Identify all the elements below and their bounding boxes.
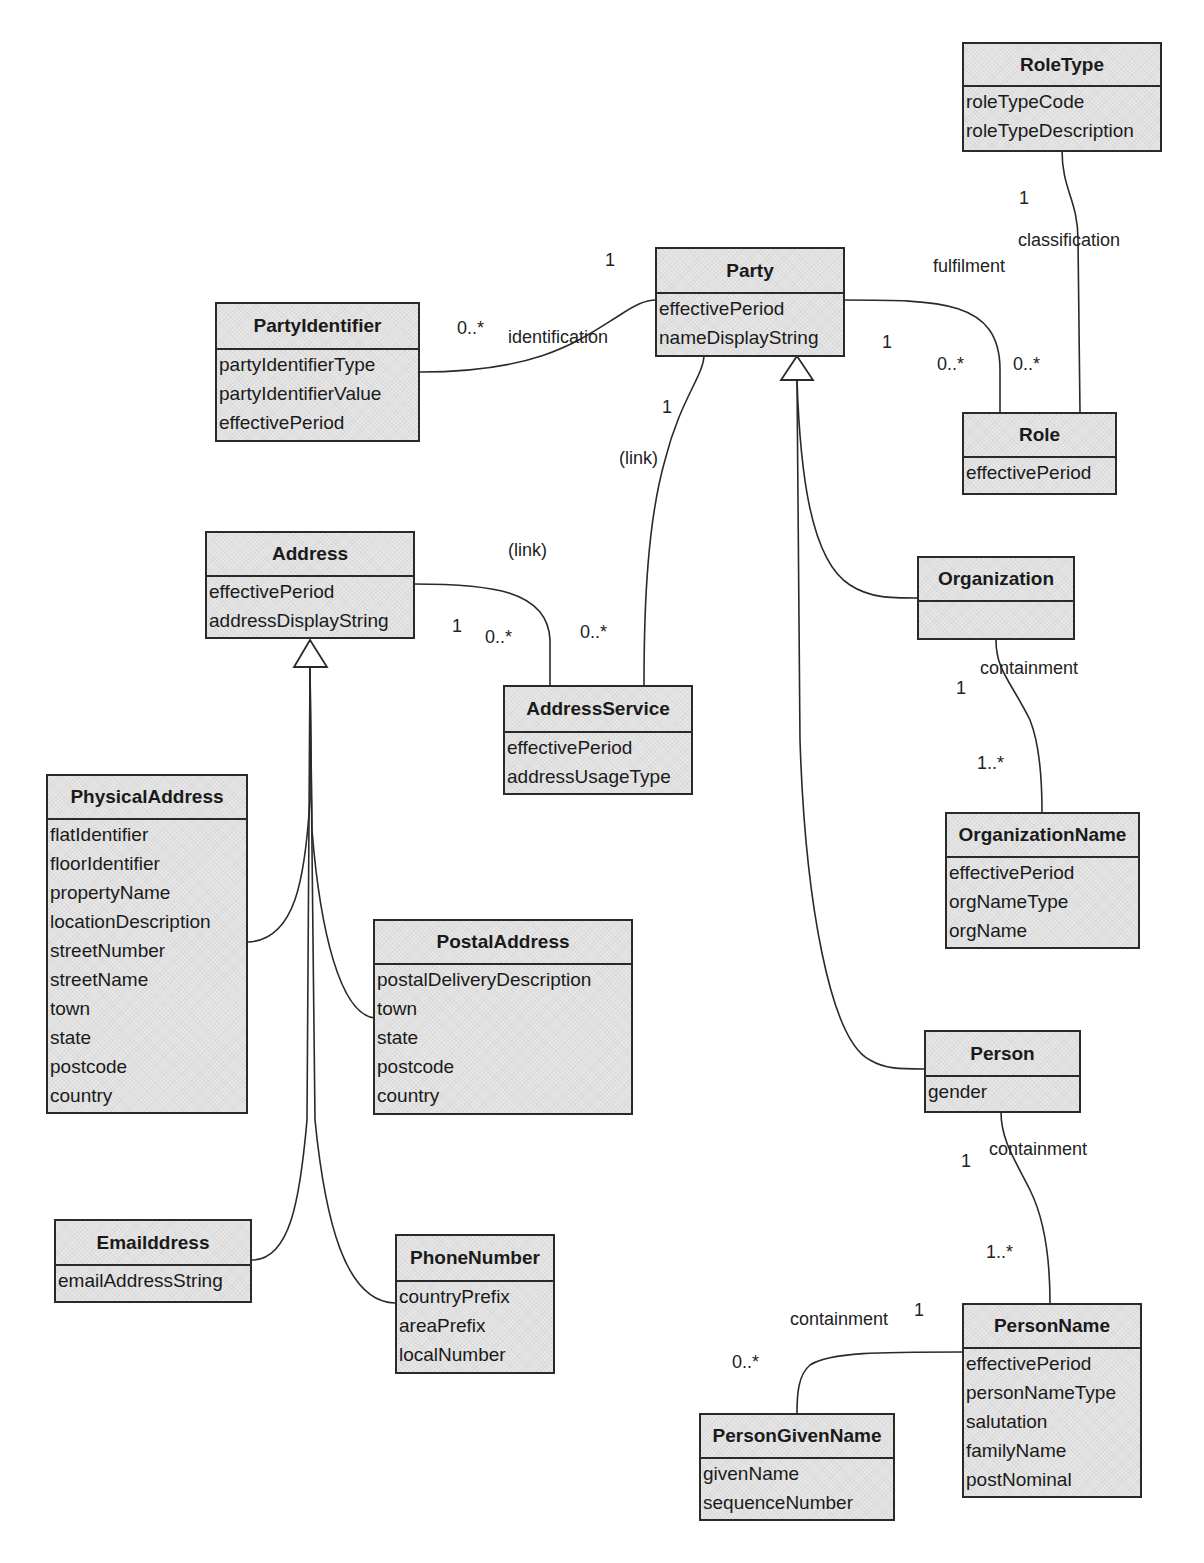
- attribute: givenName: [703, 1459, 893, 1488]
- attribute: addressUsageType: [507, 762, 691, 791]
- class-name: AddressService: [505, 687, 691, 733]
- attribute: partyIdentifierType: [219, 350, 418, 379]
- attribute: state: [50, 1023, 246, 1052]
- attribute: effectivePeriod: [507, 733, 691, 762]
- class-name: Organization: [919, 558, 1073, 602]
- class-physicaladdress[interactable]: PhysicalAddress flatIdentifier floorIden…: [46, 774, 248, 1114]
- class-role[interactable]: Role effectivePeriod: [962, 412, 1117, 495]
- organization-generalization: [797, 380, 918, 598]
- class-organization[interactable]: Organization: [917, 556, 1075, 640]
- attribute: effectivePeriod: [659, 294, 843, 323]
- class-partyidentifier[interactable]: PartyIdentifier partyIdentifierType part…: [215, 302, 420, 442]
- attribute: roleTypeCode: [966, 87, 1160, 116]
- attribute: countryPrefix: [399, 1282, 553, 1311]
- multiplicity-label: 0..*: [1013, 354, 1040, 375]
- class-name: RoleType: [964, 44, 1160, 87]
- multiplicity-label: 1..*: [977, 753, 1004, 774]
- attribute: flatIdentifier: [50, 820, 246, 849]
- address-addressservice-link: [414, 584, 550, 685]
- attribute-list: effectivePeriod nameDisplayString: [657, 294, 843, 352]
- person-generalization: [797, 380, 924, 1069]
- class-name: PhysicalAddress: [48, 776, 246, 820]
- attribute: town: [50, 994, 246, 1023]
- class-party[interactable]: Party effectivePeriod nameDisplayString: [655, 247, 845, 357]
- attribute: floorIdentifier: [50, 849, 246, 878]
- attribute: sequenceNumber: [703, 1488, 893, 1517]
- fulfilment-association: [844, 300, 1000, 412]
- multiplicity-label: 0..*: [937, 354, 964, 375]
- multiplicity-label: 1: [961, 1151, 971, 1172]
- attribute-list: postalDeliveryDescription town state pos…: [375, 965, 631, 1110]
- uml-class-diagram: RoleType roleTypeCode roleTypeDescriptio…: [0, 0, 1204, 1563]
- attribute: salutation: [966, 1407, 1140, 1436]
- class-name: Emailddress: [56, 1221, 250, 1266]
- multiplicity-label: 0..*: [732, 1352, 759, 1373]
- attribute: roleTypeDescription: [966, 116, 1160, 145]
- attribute: personNameType: [966, 1378, 1140, 1407]
- attribute: effectivePeriod: [966, 1349, 1140, 1378]
- class-phonenumber[interactable]: PhoneNumber countryPrefix areaPrefix loc…: [395, 1234, 555, 1374]
- multiplicity-label: 0..*: [457, 318, 484, 339]
- party-generalization-arrow: [781, 356, 813, 380]
- class-name: PhoneNumber: [397, 1236, 553, 1282]
- attribute: postalDeliveryDescription: [377, 965, 631, 994]
- association-label: classification: [1018, 230, 1120, 251]
- association-label: containment: [980, 658, 1078, 679]
- attribute: localNumber: [399, 1340, 553, 1369]
- multiplicity-label: 1: [452, 616, 462, 637]
- attribute-list: effectivePeriod addressUsageType: [505, 733, 691, 791]
- emailaddress-generalization: [252, 667, 310, 1260]
- attribute: nameDisplayString: [659, 323, 843, 352]
- multiplicity-label: 1: [605, 250, 615, 271]
- classification-association: [1062, 150, 1080, 412]
- attribute: postNominal: [966, 1465, 1140, 1494]
- class-address[interactable]: Address effectivePeriod addressDisplaySt…: [205, 531, 415, 639]
- attribute: addressDisplayString: [209, 606, 413, 635]
- attribute: postcode: [377, 1052, 631, 1081]
- postaladdress-generalization: [310, 667, 375, 1018]
- class-person[interactable]: Person gender: [924, 1030, 1081, 1113]
- association-label: containment: [989, 1139, 1087, 1160]
- attribute: familyName: [966, 1436, 1140, 1465]
- class-organizationname[interactable]: OrganizationName effectivePeriod orgName…: [945, 812, 1140, 949]
- attribute: country: [50, 1081, 246, 1110]
- multiplicity-label: 1: [914, 1300, 924, 1321]
- attribute-list: givenName sequenceNumber: [701, 1459, 893, 1517]
- address-generalization-arrow: [294, 640, 327, 667]
- class-persongivenname[interactable]: PersonGivenName givenName sequenceNumber: [699, 1413, 895, 1521]
- attribute-list: emailAddressString: [56, 1266, 250, 1295]
- attribute: postcode: [50, 1052, 246, 1081]
- multiplicity-label: 0..*: [485, 627, 512, 648]
- multiplicity-label: 1: [1019, 188, 1029, 209]
- multiplicity-label: 1: [882, 332, 892, 353]
- attribute: gender: [928, 1077, 1079, 1106]
- party-addressservice-link: [644, 355, 704, 685]
- association-label: containment: [790, 1309, 888, 1330]
- attribute: effectivePeriod: [966, 458, 1115, 487]
- class-name: PartyIdentifier: [217, 304, 418, 350]
- attribute-list: effectivePeriod: [964, 458, 1115, 487]
- attribute: orgName: [949, 916, 1138, 945]
- class-name: Address: [207, 533, 413, 577]
- class-name: PersonGivenName: [701, 1415, 893, 1459]
- attribute-list: gender: [926, 1077, 1079, 1106]
- attribute: effectivePeriod: [219, 408, 418, 437]
- class-emailaddress[interactable]: Emailddress emailAddressString: [54, 1219, 252, 1303]
- pgn-containment-association: [797, 1352, 962, 1413]
- class-name: Party: [657, 249, 843, 294]
- attribute: areaPrefix: [399, 1311, 553, 1340]
- class-name: Role: [964, 414, 1115, 458]
- multiplicity-label: 0..*: [580, 622, 607, 643]
- attribute: effectivePeriod: [949, 858, 1138, 887]
- class-postaladdress[interactable]: PostalAddress postalDeliveryDescription …: [373, 919, 633, 1115]
- class-addressservice[interactable]: AddressService effectivePeriod addressUs…: [503, 685, 693, 795]
- attribute: locationDescription: [50, 907, 246, 936]
- multiplicity-label: 1: [662, 397, 672, 418]
- class-roletype[interactable]: RoleType roleTypeCode roleTypeDescriptio…: [962, 42, 1162, 152]
- multiplicity-label: 1..*: [986, 1242, 1013, 1263]
- attribute: partyIdentifierValue: [219, 379, 418, 408]
- association-label: fulfilment: [933, 256, 1005, 277]
- attribute: effectivePeriod: [209, 577, 413, 606]
- class-personname[interactable]: PersonName effectivePeriod personNameTyp…: [962, 1303, 1142, 1498]
- attribute: orgNameType: [949, 887, 1138, 916]
